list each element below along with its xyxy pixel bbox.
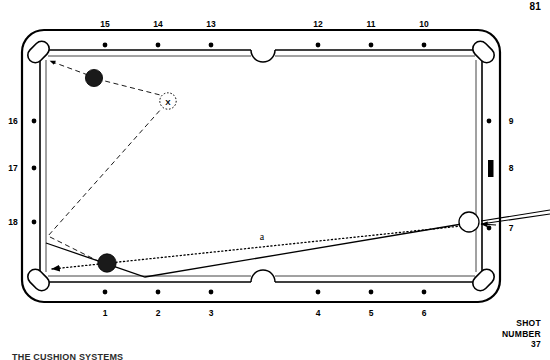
diamond-2 xyxy=(156,290,161,295)
rail-label-bottom-3: 3 xyxy=(209,308,214,318)
rail-label-bottom-2: 2 xyxy=(156,308,161,318)
rail-label-bottom-4: 4 xyxy=(316,308,321,318)
rail-label-top-11: 11 xyxy=(367,19,376,29)
cue-ball xyxy=(459,212,479,232)
diamond-11 xyxy=(369,43,374,48)
rail-marker-bar xyxy=(488,160,494,177)
diamond-9 xyxy=(487,119,492,124)
diamond-12 xyxy=(316,43,321,48)
rail-label-right-8: 8 xyxy=(509,163,514,173)
rail-label-left-16: 16 xyxy=(8,116,18,126)
object-ball-upper xyxy=(85,69,102,86)
shot-number-block: SHOT NUMBER 37 xyxy=(502,318,541,350)
diamond-18 xyxy=(32,220,37,225)
rail-label-bottom-1: 1 xyxy=(103,308,108,318)
diamond-6 xyxy=(422,290,427,295)
diamond-5 xyxy=(369,290,374,295)
object-ball-lower xyxy=(98,254,116,272)
rail-label-right-7: 7 xyxy=(509,223,514,233)
diamond-7 xyxy=(487,226,492,231)
shot-label-line1: SHOT xyxy=(502,318,541,329)
shot-number-value: 37 xyxy=(502,339,541,350)
diamond-17 xyxy=(32,166,37,171)
diamond-15 xyxy=(103,43,108,48)
rail-label-bottom-5: 5 xyxy=(369,308,374,318)
shot-label-line2: NUMBER xyxy=(502,329,541,340)
rail-label-left-17: 17 xyxy=(8,163,18,173)
diamond-10 xyxy=(422,43,427,48)
diamond-1 xyxy=(103,290,108,295)
ghost-ball-x-label: X xyxy=(165,98,171,107)
page-caption: THE CUSHION SYSTEMS xyxy=(12,352,123,360)
rail-label-top-15: 15 xyxy=(100,19,110,29)
path-label-a: a xyxy=(260,231,265,242)
diamond-14 xyxy=(156,43,161,48)
rail-label-top-13: 13 xyxy=(206,19,216,29)
rail-label-bottom-6: 6 xyxy=(422,308,427,318)
rail-label-left-18: 18 xyxy=(8,217,18,227)
rail-label-right-9: 9 xyxy=(509,116,514,126)
diamond-13 xyxy=(209,43,214,48)
rail-label-top-10: 10 xyxy=(419,19,429,29)
diamond-3 xyxy=(209,290,214,295)
rail-label-top-14: 14 xyxy=(153,19,163,29)
rail-label-top-12: 12 xyxy=(313,19,323,29)
pool-table-diagram: 15 14 13 12 11 10 1 2 3 4 5 6 16 17 18 9… xyxy=(0,0,550,360)
diamond-16 xyxy=(32,119,37,124)
diagram-page: 81 xyxy=(0,0,550,360)
diamond-4 xyxy=(316,290,321,295)
